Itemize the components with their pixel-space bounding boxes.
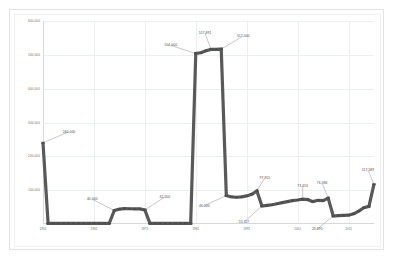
data-point-marker	[281, 202, 284, 204]
x-axis-tick-label: 1971	[141, 227, 148, 231]
data-point-marker	[148, 222, 151, 224]
data-point-marker	[260, 205, 263, 207]
data-point-marker	[57, 222, 60, 224]
data-point-marker	[174, 222, 177, 224]
x-axis-tick-label: 2011	[345, 227, 352, 231]
label-leader-line	[221, 36, 243, 49]
data-point-marker	[306, 199, 309, 201]
data-point-marker	[316, 199, 319, 201]
data-point-marker	[311, 201, 314, 203]
data-point-marker	[179, 222, 182, 224]
data-point-marker	[204, 50, 207, 52]
data-label: 117,589	[362, 168, 374, 172]
x-axis-tick-label: 1961	[90, 227, 97, 231]
data-point-marker	[169, 222, 172, 224]
data-label: 240,000	[63, 130, 76, 134]
data-point-marker	[87, 222, 90, 224]
x-axis-tick-label: 1991	[243, 227, 250, 231]
label-leader-line	[368, 170, 374, 184]
data-point-marker	[118, 208, 121, 210]
x-axis-tick-label: 1981	[192, 227, 199, 231]
data-point-marker	[92, 222, 95, 224]
data-point-marker	[133, 208, 136, 210]
data-point-marker	[220, 48, 223, 50]
data-point-marker	[164, 222, 167, 224]
data-point-marker	[138, 208, 141, 210]
data-label: 53,117	[239, 220, 249, 224]
data-point-marker	[97, 222, 100, 224]
data-point-marker	[153, 222, 156, 224]
chart-frame: 600,000500,000400,000300,000200,000100,0…	[9, 9, 384, 250]
data-point-marker	[321, 200, 324, 202]
data-point-marker	[143, 209, 146, 211]
data-point-marker	[102, 222, 105, 224]
data-point-marker	[286, 201, 289, 203]
data-point-marker	[158, 222, 161, 224]
y-axis-tick-label: 200,000	[28, 154, 40, 158]
data-label: 73,653	[297, 184, 308, 188]
data-label: 504,000	[164, 43, 177, 47]
data-point-marker	[270, 204, 273, 206]
data-point-marker	[128, 208, 131, 210]
data-label: 46,000	[199, 204, 210, 208]
data-point-marker	[347, 214, 350, 216]
data-label: 517,891	[199, 31, 212, 35]
chart-inner-frame: 600,000500,000400,000300,000200,000100,0…	[14, 14, 381, 247]
label-leader-line	[205, 34, 211, 50]
data-point-marker	[108, 222, 111, 224]
data-point-marker	[372, 183, 375, 185]
data-label: 23,695	[312, 227, 323, 231]
data-label: 97,915	[260, 176, 271, 180]
data-label: 41,500	[160, 195, 171, 199]
y-axis-tick-label: 100,000	[28, 188, 40, 192]
series-layer	[43, 21, 374, 224]
data-point-marker	[250, 193, 253, 195]
data-point-marker	[337, 215, 340, 217]
data-point-marker	[189, 222, 192, 224]
data-point-marker	[332, 215, 335, 217]
data-point-marker	[240, 196, 243, 198]
data-point-marker	[225, 195, 228, 197]
y-axis-tick-label: 500,000	[28, 53, 40, 57]
y-axis-tick-label: 600,000	[28, 19, 40, 23]
data-label: 76,384	[317, 181, 328, 185]
data-point-marker	[209, 48, 212, 50]
label-leader-line	[257, 178, 265, 191]
x-axis-tick-label: 2001	[294, 227, 301, 231]
label-leader-line	[145, 197, 165, 210]
data-point-marker	[235, 196, 238, 198]
data-point-marker	[291, 200, 294, 202]
data-point-marker	[82, 222, 85, 224]
data-point-marker	[301, 198, 304, 200]
data-point-marker	[67, 222, 70, 224]
data-point-marker	[184, 222, 187, 224]
data-point-marker	[245, 195, 248, 197]
data-point-marker	[41, 142, 44, 144]
y-axis-tick-label: 400,000	[28, 87, 40, 91]
data-point-marker	[362, 207, 365, 209]
data-point-marker	[52, 222, 55, 224]
data-point-marker	[367, 205, 370, 207]
data-point-marker	[72, 222, 75, 224]
data-point-marker	[276, 203, 279, 205]
data-point-marker	[214, 48, 217, 50]
data-point-marker	[357, 210, 360, 212]
data-point-marker	[62, 222, 65, 224]
data-point-marker	[230, 196, 233, 198]
data-point-marker	[255, 190, 258, 192]
data-point-marker	[46, 222, 49, 224]
x-axis-tick-label: 1951	[40, 227, 47, 231]
data-point-marker	[123, 208, 126, 210]
data-point-marker	[113, 209, 116, 211]
label-leader-line	[322, 183, 328, 198]
data-label: 517,000	[237, 34, 250, 38]
data-label: 40,000	[87, 197, 98, 201]
data-point-marker	[199, 52, 202, 54]
plot-area: 600,000500,000400,000300,000200,000100,0…	[43, 21, 374, 224]
data-point-marker	[194, 52, 197, 54]
data-point-marker	[265, 204, 268, 206]
data-point-marker	[342, 214, 345, 216]
data-point-marker	[296, 199, 299, 201]
data-point-marker	[77, 222, 80, 224]
data-point-marker	[352, 213, 355, 215]
